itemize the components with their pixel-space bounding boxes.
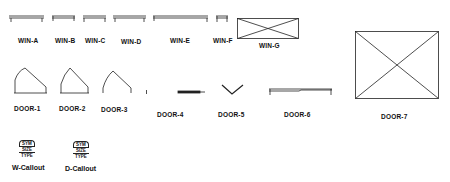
w-callout-type: TYPE [19, 153, 35, 158]
door-1-label: DOOR-1 [14, 105, 40, 112]
win-c-label: WIN-C [85, 37, 106, 44]
door-7-label: DOOR-7 [381, 113, 407, 120]
door-5-label: DOOR-5 [218, 111, 244, 118]
d-callout-type: TYPE [73, 154, 89, 159]
win-b-label: WIN-B [55, 37, 76, 44]
w-callout-symbol[interactable]: SYM SIZE TYPE [19, 140, 35, 158]
win-d-symbol[interactable] [113, 15, 147, 23]
d-callout-label: D-Callout [65, 165, 96, 172]
door-7-symbol[interactable] [355, 31, 439, 99]
win-c-symbol[interactable] [83, 15, 107, 23]
d-callout-size: SIZE [73, 147, 89, 154]
d-callout-symbol[interactable]: SYM SIZE TYPE [73, 141, 89, 159]
w-callout-size: SIZE [19, 146, 35, 153]
door-1-symbol[interactable] [14, 68, 48, 94]
win-a-symbol[interactable] [9, 15, 45, 23]
win-g-symbol[interactable] [237, 18, 299, 39]
door-6-symbol[interactable] [269, 88, 333, 96]
win-b-symbol[interactable] [52, 15, 76, 23]
win-g-label: WIN-G [259, 42, 280, 49]
win-f-label: WIN-F [213, 37, 233, 44]
win-e-label: WIN-E [170, 37, 190, 44]
door-6-label: DOOR-6 [284, 111, 310, 118]
win-e-symbol[interactable] [153, 15, 209, 23]
win-f-symbol[interactable] [216, 15, 229, 23]
door-4-symbol[interactable] [146, 89, 206, 95]
win-a-label: WIN-A [18, 37, 39, 44]
door-3-label: DOOR-3 [101, 106, 127, 113]
door-5-symbol[interactable] [222, 84, 244, 96]
door-4-label: DOOR-4 [157, 111, 183, 118]
door-3-symbol[interactable] [102, 70, 132, 94]
win-d-label: WIN-D [121, 38, 142, 45]
door-2-label: DOOR-2 [59, 105, 85, 112]
w-callout-label: W-Callout [12, 164, 45, 171]
door-2-symbol[interactable] [60, 68, 90, 94]
